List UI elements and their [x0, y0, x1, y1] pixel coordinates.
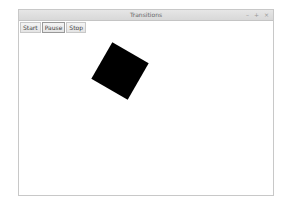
rotating-square: [91, 42, 148, 99]
window-controls: – + ×: [246, 10, 269, 20]
toolbar: Start Pause Stop: [19, 21, 273, 34]
minimize-icon[interactable]: –: [246, 10, 249, 20]
title-bar[interactable]: Transitions – + ×: [19, 10, 273, 21]
start-button[interactable]: Start: [20, 22, 41, 33]
window-title: Transitions: [19, 10, 273, 20]
pause-button[interactable]: Pause: [42, 22, 66, 33]
stop-button[interactable]: Stop: [66, 22, 86, 33]
maximize-icon[interactable]: +: [254, 10, 259, 20]
close-icon[interactable]: ×: [264, 10, 269, 20]
app-window: Transitions – + × Start Pause Stop: [18, 9, 274, 196]
